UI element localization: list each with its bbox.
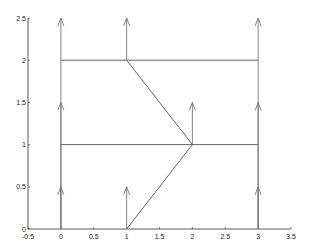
y-tick-label: 0 bbox=[22, 226, 26, 233]
x-tick-label: 2.5 bbox=[220, 233, 230, 240]
mesh-edge bbox=[127, 145, 193, 229]
x-tick-label: 1.5 bbox=[155, 233, 165, 240]
vector-field-plot: -0.500.511.522.533.500.511.522.5 bbox=[0, 0, 310, 252]
y-tick-label: 0.5 bbox=[16, 183, 26, 190]
y-tick-label: 1.5 bbox=[16, 99, 26, 106]
x-tick-label: 0.5 bbox=[89, 233, 99, 240]
x-tick-label: 1 bbox=[125, 233, 129, 240]
chart-figure: -0.500.511.522.533.500.511.522.5 bbox=[0, 0, 310, 252]
x-tick-label: 0 bbox=[59, 233, 63, 240]
y-tick-label: 1 bbox=[22, 141, 26, 148]
x-tick-label: 3 bbox=[256, 233, 260, 240]
x-tick-label: -0.5 bbox=[22, 233, 34, 240]
y-tick-label: 2 bbox=[22, 57, 26, 64]
y-tick-label: 2.5 bbox=[16, 15, 26, 22]
x-tick-label: 3.5 bbox=[286, 233, 296, 240]
mesh-edge bbox=[127, 60, 193, 144]
x-tick-label: 2 bbox=[190, 233, 194, 240]
